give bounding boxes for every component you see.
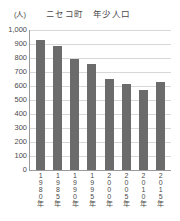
bar: [70, 59, 79, 170]
bar: [53, 46, 62, 170]
plot-area: [29, 30, 171, 170]
x-label-slot: 1980年: [32, 172, 49, 218]
bar: [139, 90, 148, 170]
bar-slot: [32, 30, 49, 170]
x-label-slot: 1995年: [83, 172, 100, 218]
x-label-slot: 2000年: [101, 172, 118, 218]
y-axis-tick-label: 900: [0, 40, 27, 48]
axis-baseline: [29, 170, 171, 171]
bars-group: [29, 30, 171, 170]
bar-slot: [49, 30, 66, 170]
x-label-slot: 1990年: [66, 172, 83, 218]
bar-chart-figure: (人) ニセコ町 年少人口 1,000900800700600500400300…: [0, 0, 180, 221]
x-label-slot: 2010年: [135, 172, 152, 218]
y-axis-tick-label: 0: [0, 166, 27, 174]
chart-title: ニセコ町 年少人口: [46, 7, 176, 19]
y-axis-tick-label: 200: [0, 138, 27, 146]
y-axis-tick-label: 1,000: [0, 26, 27, 34]
y-axis-tick-label: 700: [0, 68, 27, 76]
x-axis-tick-label: 2000年: [105, 172, 112, 218]
x-label-slot: 2005年: [118, 172, 135, 218]
bar: [156, 82, 165, 170]
y-axis-tick-label: 400: [0, 110, 27, 118]
y-axis-tick-label: 100: [0, 152, 27, 160]
bar-slot: [152, 30, 169, 170]
y-axis-tick-label: 600: [0, 82, 27, 90]
bar-slot: [66, 30, 83, 170]
x-axis-tick-label: 2010年: [140, 172, 147, 218]
y-axis-unit-label: (人): [14, 8, 26, 19]
x-axis-tick-label: 1980年: [37, 172, 44, 218]
bar: [105, 79, 114, 170]
y-axis-tick-label: 800: [0, 54, 27, 62]
x-label-slot: 2015年: [152, 172, 169, 218]
bar: [122, 84, 131, 170]
y-axis-tick-label: 300: [0, 124, 27, 132]
x-label-slot: 1985年: [49, 172, 66, 218]
bar-slot: [83, 30, 100, 170]
x-axis-tick-label: 1995年: [88, 172, 95, 218]
bar-slot: [135, 30, 152, 170]
x-axis-tick-label: 2015年: [157, 172, 164, 218]
y-axis-tick-label: 500: [0, 96, 27, 104]
x-axis-tick-labels: 1980年1985年1990年1995年2000年2005年2010年2015年: [29, 172, 171, 218]
x-axis-tick-label: 2005年: [122, 172, 129, 218]
x-axis-tick-label: 1985年: [54, 172, 61, 218]
bar-slot: [101, 30, 118, 170]
x-axis-tick-label: 1990年: [71, 172, 78, 218]
bar-slot: [118, 30, 135, 170]
bar: [36, 40, 45, 170]
bar: [87, 64, 96, 170]
